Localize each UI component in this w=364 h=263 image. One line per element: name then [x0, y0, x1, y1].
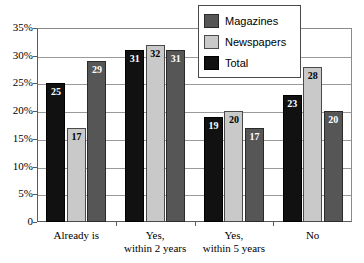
bar-newspapers-2: 20 [224, 111, 243, 222]
bar-newspapers-3: 28 [303, 67, 322, 222]
y-axis-tick-label: 20% [1, 105, 33, 116]
bar-value-label: 19 [205, 120, 222, 131]
bar-magazines-2: 17 [245, 128, 264, 222]
bar-total-0: 25 [46, 83, 65, 222]
legend-label: Total [225, 57, 248, 69]
bar-newspapers-0: 17 [67, 128, 86, 222]
bar-value-label: 23 [284, 98, 301, 109]
bars-layer: 251729313231192017232820 [37, 28, 352, 222]
x-axis-category-line: within 5 years [183, 242, 286, 255]
legend-item-magazines: Magazines [204, 10, 300, 31]
bar-newspapers-1: 32 [146, 45, 165, 222]
legend-swatch-magazines [204, 14, 219, 28]
x-axis-category-label: No [261, 229, 364, 242]
legend-label: Newspapers [225, 36, 286, 48]
legend-item-newspapers: Newspapers [204, 31, 300, 52]
y-axis-tick-label: 10% [1, 161, 33, 172]
bar-value-label: 31 [167, 53, 184, 64]
y-axis: 05%10%15%20%25%30%35% [0, 0, 33, 263]
bar-value-label: 17 [68, 131, 85, 142]
bar-magazines-3: 20 [324, 111, 343, 222]
legend-swatch-total [204, 56, 219, 70]
y-axis-tick-label: 25% [1, 77, 33, 88]
y-axis-tick-label: 15% [1, 133, 33, 144]
legend-item-total: Total [204, 52, 300, 73]
x-axis: Already isYes,within 2 yearsYes,within 5… [37, 222, 352, 263]
y-axis-tick-label: 5% [1, 188, 33, 199]
x-axis-tick-mark [273, 222, 274, 226]
chart-legend: MagazinesNewspapersTotal [198, 5, 301, 78]
bar-value-label: 20 [325, 114, 342, 125]
bar-value-label: 32 [147, 48, 164, 59]
x-axis-category-line: No [261, 229, 364, 242]
legend-swatch-newspapers [204, 35, 219, 49]
bar-magazines-0: 29 [87, 61, 106, 222]
bar-total-1: 31 [125, 50, 144, 222]
bar-value-label: 17 [246, 131, 263, 142]
bar-total-2: 19 [204, 117, 223, 222]
bar-value-label: 31 [126, 53, 143, 64]
bar-value-label: 25 [47, 86, 64, 97]
bar-value-label: 20 [225, 114, 242, 125]
bar-magazines-1: 31 [166, 50, 185, 222]
y-axis-tick-label: 35% [1, 22, 33, 33]
bar-chart: 05%10%15%20%25%30%35% 251729313231192017… [0, 0, 364, 263]
bar-total-3: 23 [283, 95, 302, 222]
y-axis-tick-label: 30% [1, 50, 33, 61]
x-axis-tick-mark [195, 222, 196, 226]
bar-value-label: 28 [304, 70, 321, 81]
bar-value-label: 29 [88, 64, 105, 75]
legend-label: Magazines [225, 15, 278, 27]
x-axis-tick-mark [116, 222, 117, 226]
y-axis-tick-label: 0 [1, 216, 33, 227]
